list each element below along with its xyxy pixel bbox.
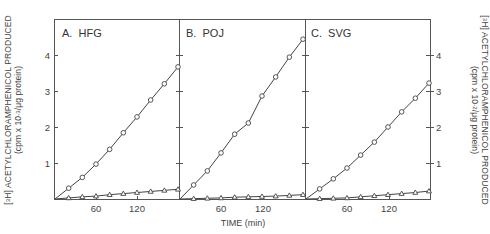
triangle-marker: [94, 194, 99, 198]
y-axis-right-line1: [3H] ACETYLCHLORAMPHENICOL PRODUCED: [480, 0, 490, 220]
circle-marker: [358, 153, 363, 158]
y-tick-left-2: 2: [45, 122, 50, 133]
y-tick-left-3: 3: [45, 86, 50, 97]
series-line-c-circles: [306, 83, 429, 199]
circle-marker: [301, 37, 306, 42]
y-axis-left-line2: (cpm x 10-3/μg protein): [13, 15, 23, 205]
circle-marker: [345, 166, 350, 171]
y-axis-left-line1: [3H] ACETYLCHLORAMPHENICOL PRODUCED: [3, 15, 13, 205]
plot-series: [55, 37, 432, 201]
circle-marker: [260, 94, 265, 99]
triangle-marker: [317, 196, 322, 200]
circle-marker: [232, 132, 237, 137]
triangle-marker: [246, 194, 251, 198]
circle-marker: [176, 65, 181, 70]
circle-marker: [427, 81, 432, 86]
triangle-marker: [358, 194, 363, 198]
y-axis-label-left: [3H] ACETYLCHLORAMPHENICOL PRODUCED (cpm…: [3, 15, 23, 205]
circle-marker: [413, 96, 418, 101]
circle-marker: [372, 140, 377, 145]
y-tick-right-1: 1: [436, 158, 441, 169]
y-tick-labels-left: 1 2 3 4: [45, 50, 50, 169]
circle-marker: [80, 175, 85, 180]
triangle-marker: [260, 194, 265, 198]
circle-marker: [331, 177, 336, 182]
panel-c-title: C. SVG: [311, 27, 351, 39]
circle-marker: [399, 110, 404, 115]
triangle-marker: [345, 195, 350, 199]
circle-marker: [135, 115, 140, 120]
x-tick-b-120: 120: [255, 203, 271, 214]
circle-marker: [317, 187, 322, 192]
panel-b-frame: [180, 20, 306, 200]
panel-b-title: B. POJ: [186, 27, 224, 39]
x-tick-a-120: 120: [129, 203, 145, 214]
y-tick-right-3: 3: [436, 86, 441, 97]
y-tick-labels-right: 1 2 3 4: [436, 50, 441, 169]
y-axis-right-line2: (cpm x 10-2/μg protein): [470, 0, 480, 220]
panel-a-title: A. HFG: [62, 27, 102, 39]
x-tick-labels: 60 120 60 120 60 120: [91, 203, 397, 214]
triangle-marker: [386, 192, 391, 196]
panel-c-frame: [306, 20, 431, 200]
triangle-marker: [232, 195, 237, 199]
circle-marker: [66, 186, 71, 191]
x-tick-b-60: 60: [216, 203, 227, 214]
triangle-marker: [287, 193, 292, 197]
y-tick-left-4: 4: [45, 50, 50, 61]
circle-marker: [148, 98, 153, 103]
triangle-marker: [148, 189, 153, 193]
series-line-a-triangles: [55, 189, 178, 199]
series-line-b-circles: [180, 39, 303, 199]
triangle-marker: [191, 196, 196, 200]
triangle-marker: [162, 188, 167, 192]
triangle-marker: [135, 190, 140, 194]
circle-marker: [219, 151, 224, 156]
triangle-marker: [372, 193, 377, 197]
panel-frames: [55, 20, 431, 200]
triangle-marker: [121, 191, 126, 195]
triangle-marker: [331, 196, 336, 200]
series-line-a-circles: [55, 67, 178, 199]
triangle-marker: [66, 195, 71, 199]
x-tick-a-60: 60: [91, 203, 102, 214]
circle-marker: [107, 147, 112, 152]
series-line-b-triangles: [180, 195, 303, 199]
triangle-marker: [301, 192, 306, 196]
circle-marker: [121, 130, 126, 135]
triangle-marker: [399, 191, 404, 195]
triangle-marker: [413, 190, 418, 194]
x-tick-c-60: 60: [342, 203, 353, 214]
y-tick-right-2: 2: [436, 122, 441, 133]
circle-marker: [205, 169, 210, 174]
x-tick-c-120: 120: [381, 203, 397, 214]
triangle-marker: [273, 194, 278, 198]
triangle-marker: [219, 195, 224, 199]
tick-marks: [54, 56, 434, 201]
circle-marker: [246, 121, 251, 126]
circle-marker: [162, 82, 167, 87]
circle-marker: [191, 183, 196, 188]
y-tick-left-1: 1: [45, 158, 50, 169]
y-axis-label-right: [3H] ACETYLCHLORAMPHENICOL PRODUCED (cpm…: [470, 0, 490, 220]
y-tick-right-4: 4: [436, 50, 441, 61]
series-line-c-triangles: [306, 191, 429, 199]
x-axis-label: TIME (min): [221, 218, 266, 228]
circle-marker: [386, 125, 391, 130]
circle-marker: [287, 55, 292, 60]
circle-marker: [94, 162, 99, 167]
circle-marker: [273, 75, 278, 80]
panel-a-frame: [55, 20, 180, 200]
triangle-marker: [107, 192, 112, 196]
triangle-marker: [205, 196, 210, 200]
triangle-marker: [80, 194, 85, 198]
